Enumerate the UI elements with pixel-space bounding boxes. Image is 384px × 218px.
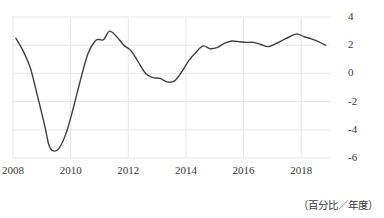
x-axis-tick-label: 2018 [281,165,321,176]
y-axis-tick-label: 4 [348,11,354,22]
chart-plot-area [0,0,384,218]
data-series-line [16,31,326,151]
y-axis-tick-label: -4 [348,124,357,135]
vertical-gridlines [13,17,301,158]
horizontal-gridlines [13,17,330,158]
line-chart: 420-2-4-6 200820102012201420162018 （百分比／… [0,0,384,218]
y-axis-tick-label: 2 [348,39,354,50]
x-axis-tick-label: 2010 [51,165,91,176]
y-axis-tick-label: -2 [348,96,357,107]
x-axis-tick-label: 2014 [166,165,206,176]
x-axis-tick-label: 2012 [108,165,148,176]
x-axis-tick-label: 2016 [224,165,264,176]
y-axis-tick-label: 0 [348,67,354,78]
x-axis-tick-label: 2008 [0,165,33,176]
y-axis-tick-label: -6 [348,152,357,163]
unit-note-label: （百分比／年度） [298,197,378,212]
